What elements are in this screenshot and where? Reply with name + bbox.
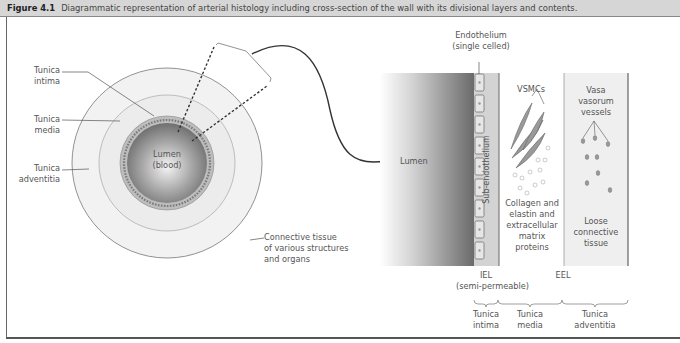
- zoom-arrow: [252, 46, 385, 163]
- lumen-region: [380, 73, 474, 266]
- vsmc-cells: [511, 103, 545, 168]
- label-layer-intima: Tunica intima: [466, 309, 506, 331]
- label-vsmcs: VSMCs: [516, 84, 546, 95]
- label-layer-adventitia: Tunica adventitia: [570, 309, 620, 331]
- diagram-graphics: [0, 0, 680, 343]
- label-tunica-intima: Tunica intima: [20, 65, 60, 87]
- label-endothelium: Endothelium (single celled): [446, 30, 516, 52]
- label-iel: IEL (semi-permeable): [456, 270, 516, 292]
- label-media-contents: Collagen and elastin and extracellular m…: [500, 198, 564, 253]
- label-connective-tissue: Connective tissue of various structures …: [264, 232, 349, 265]
- label-subendothelium: Sub-endothelium: [481, 130, 492, 210]
- adventitia-brace: [562, 300, 628, 307]
- label-adventitia-contents: Loose connective tissue: [564, 216, 628, 249]
- label-eel: EEL: [548, 270, 578, 281]
- label-layer-media: Tunica media: [510, 309, 550, 331]
- label-tunica-media: Tunica media: [20, 114, 60, 136]
- intima-brace: [474, 300, 498, 307]
- label-lumen-blood: Lumen (blood): [142, 149, 192, 171]
- label-vasa-vasorum: Vasa vasorum vessels: [564, 85, 628, 118]
- label-tunica-adventitia: Tunica adventitia: [10, 163, 60, 185]
- label-lumen: Lumen: [400, 156, 428, 167]
- media-brace: [498, 300, 562, 307]
